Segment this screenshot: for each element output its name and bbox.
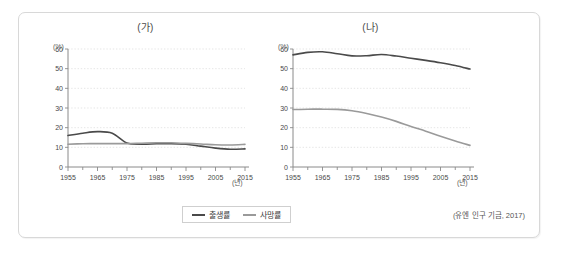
source-note: (유엔 인구 기금, 2017)	[453, 209, 525, 220]
legend-label-death-rate: 사망률	[260, 209, 281, 220]
svg-text:2005: 2005	[208, 174, 224, 181]
svg-text:1965: 1965	[315, 174, 331, 181]
legend-entry-death-rate: 사망률	[243, 209, 281, 220]
legend-entry-birth-rate: 출생률	[192, 209, 230, 220]
panel-a-svg: 0102030405060195519651975198519952005201…	[33, 41, 258, 191]
svg-text:20: 20	[55, 124, 63, 131]
svg-text:2015: 2015	[237, 174, 253, 181]
svg-text:40: 40	[55, 85, 63, 92]
svg-text:0: 0	[59, 164, 63, 171]
chart-legend: 출생률 사망률	[182, 206, 291, 223]
figure-frame: (가) (%) (년) 0102030405060195519651975198…	[18, 12, 540, 238]
svg-text:10: 10	[55, 144, 63, 151]
legend-line-icon-birth-rate	[192, 214, 205, 216]
svg-text:2005: 2005	[433, 174, 449, 181]
panel-b-svg: 0102030405060195519651975198519952005201…	[258, 41, 483, 191]
legend-label-birth-rate: 출생률	[209, 209, 230, 220]
panel-b-title: (나)	[258, 19, 483, 34]
svg-text:1955: 1955	[285, 174, 301, 181]
svg-text:1955: 1955	[60, 174, 76, 181]
svg-text:1985: 1985	[149, 174, 165, 181]
svg-text:60: 60	[55, 46, 63, 53]
svg-text:50: 50	[280, 65, 288, 72]
svg-text:1995: 1995	[403, 174, 419, 181]
svg-text:20: 20	[280, 124, 288, 131]
svg-text:1975: 1975	[119, 174, 135, 181]
svg-text:30: 30	[55, 105, 63, 112]
svg-text:0: 0	[284, 164, 288, 171]
svg-text:1985: 1985	[374, 174, 390, 181]
chart-panel-a: (가) (%) (년) 0102030405060195519651975198…	[33, 13, 258, 203]
svg-text:40: 40	[280, 85, 288, 92]
svg-text:60: 60	[280, 46, 288, 53]
svg-text:30: 30	[280, 105, 288, 112]
svg-text:1995: 1995	[178, 174, 194, 181]
svg-text:1975: 1975	[344, 174, 360, 181]
svg-text:2015: 2015	[462, 174, 478, 181]
panel-a-title: (가)	[33, 19, 258, 34]
legend-line-icon-death-rate	[243, 214, 256, 216]
panel-a-plot-area: 0102030405060195519651975198519952005201…	[33, 41, 258, 191]
svg-text:10: 10	[280, 144, 288, 151]
chart-panel-b: (나) (%) (년) 0102030405060195519651975198…	[258, 13, 483, 203]
svg-text:50: 50	[55, 65, 63, 72]
panel-b-plot-area: 0102030405060195519651975198519952005201…	[258, 41, 483, 191]
svg-text:1965: 1965	[90, 174, 106, 181]
